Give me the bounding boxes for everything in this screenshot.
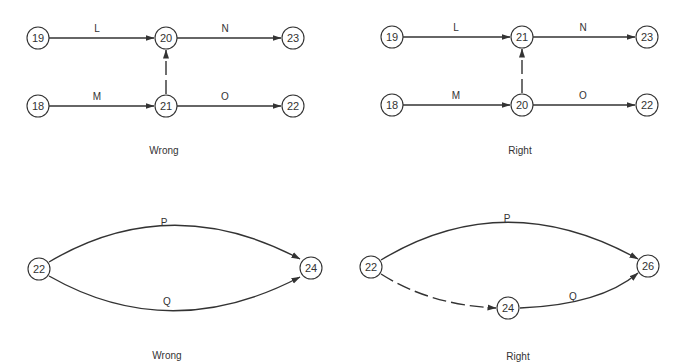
edge-label-Q: Q xyxy=(569,291,577,302)
node-23: 23 xyxy=(282,27,304,49)
svg-text:22: 22 xyxy=(365,261,377,273)
caption-wrong: Wrong xyxy=(152,350,181,361)
node-21: 21 xyxy=(511,26,533,48)
svg-text:22: 22 xyxy=(287,100,299,112)
diagram-bottom-right: P Q 22 24 26 Right xyxy=(360,213,659,362)
diagram-bottom-wrong: P Q 22 24 Wrong xyxy=(28,217,322,361)
edge-label-M: M xyxy=(93,91,101,102)
node-18: 18 xyxy=(27,95,49,117)
svg-text:22: 22 xyxy=(33,263,45,275)
node-22: 22 xyxy=(28,258,50,280)
svg-text:18: 18 xyxy=(386,99,398,111)
node-24: 24 xyxy=(300,257,322,279)
svg-text:21: 21 xyxy=(160,100,172,112)
node-19: 19 xyxy=(27,27,49,49)
dummy-activity-arrow xyxy=(381,274,496,308)
caption-wrong: Wrong xyxy=(149,145,178,156)
svg-text:20: 20 xyxy=(516,99,528,111)
node-26: 26 xyxy=(637,255,659,277)
node-22: 22 xyxy=(360,256,382,278)
svg-text:19: 19 xyxy=(386,31,398,43)
edge-label-Q: Q xyxy=(163,296,171,307)
node-24: 24 xyxy=(497,297,519,319)
node-21: 21 xyxy=(155,95,177,117)
svg-text:19: 19 xyxy=(32,32,44,44)
svg-text:22: 22 xyxy=(641,99,653,111)
svg-text:24: 24 xyxy=(502,302,514,314)
edge-P xyxy=(49,225,300,262)
edge-label-O: O xyxy=(579,90,587,101)
svg-text:21: 21 xyxy=(516,31,528,43)
diagram-top-wrong: L N M O 19 20 23 18 21 22 Wrong xyxy=(27,23,304,156)
svg-text:18: 18 xyxy=(32,100,44,112)
node-18: 18 xyxy=(381,94,403,116)
node-19: 19 xyxy=(381,26,403,48)
edge-label-P: P xyxy=(161,217,168,228)
node-22: 22 xyxy=(636,94,658,116)
svg-text:20: 20 xyxy=(160,32,172,44)
edge-label-O: O xyxy=(221,91,229,102)
svg-text:24: 24 xyxy=(305,262,317,274)
edge-label-N: N xyxy=(579,22,586,33)
edge-label-P: P xyxy=(504,213,511,224)
edge-label-L: L xyxy=(453,22,459,33)
diagram-top-right: L N M O 19 21 23 18 20 22 Right xyxy=(381,22,658,156)
caption-right: Right xyxy=(508,145,532,156)
caption-right: Right xyxy=(506,351,530,362)
svg-text:23: 23 xyxy=(641,31,653,43)
edge-Q xyxy=(49,276,300,311)
node-22: 22 xyxy=(282,95,304,117)
node-23: 23 xyxy=(636,26,658,48)
svg-text:23: 23 xyxy=(287,32,299,44)
node-20: 20 xyxy=(511,94,533,116)
network-diagrams: L N M O 19 20 23 18 21 22 Wrong L N M O … xyxy=(0,0,679,362)
edge-label-L: L xyxy=(94,23,100,34)
edge-label-M: M xyxy=(452,90,460,101)
svg-text:26: 26 xyxy=(642,260,654,272)
edge-Q xyxy=(520,273,638,308)
edge-P xyxy=(381,222,638,260)
node-20: 20 xyxy=(155,27,177,49)
edge-label-N: N xyxy=(221,23,228,34)
